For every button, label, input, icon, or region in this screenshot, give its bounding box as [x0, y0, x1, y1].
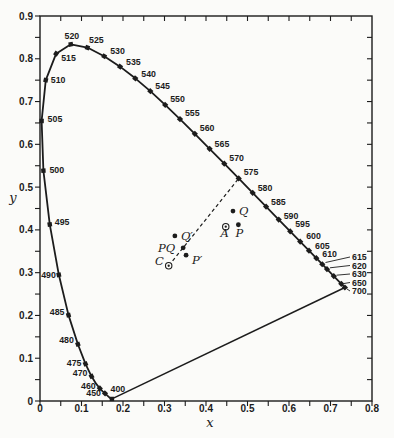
wavelength-marker [47, 222, 52, 227]
point-marker [184, 253, 189, 258]
wavelength-label: 570 [229, 153, 244, 163]
wavelength-label: 500 [49, 165, 64, 175]
wavelength-label: 490 [41, 270, 56, 280]
y-tick-label: 0.1 [19, 353, 33, 364]
x-tick-label: 0 [37, 403, 43, 414]
x-tick-label: 0.6 [282, 403, 296, 414]
y-tick-label: 0.7 [19, 96, 33, 107]
wavelength-label: 580 [258, 183, 273, 193]
wavelength-label: 520 [64, 31, 79, 41]
wavelength-label: 560 [200, 123, 215, 133]
x-tick-label: 0.1 [75, 403, 89, 414]
wavelength-label: 530 [110, 46, 125, 56]
purple-boundary-line [112, 288, 345, 399]
wavelength-label: 540 [141, 69, 156, 79]
wavelength-label: 510 [51, 75, 66, 85]
wavelength-marker [41, 168, 46, 173]
dominant-wavelength-dashed-line [169, 178, 239, 265]
wavelength-label: 535 [126, 57, 141, 67]
wavelength-label: 565 [215, 139, 230, 149]
wavelength-label: 485 [50, 307, 65, 317]
leader-line [344, 283, 350, 284]
point-label: Q′ [181, 229, 193, 243]
wavelength-marker [56, 272, 61, 277]
wavelength-label: 575 [244, 167, 259, 177]
wavelength-label: 700 [352, 286, 367, 296]
wavelength-label: 610 [322, 249, 337, 259]
leader-line [337, 274, 351, 275]
leader-line [330, 266, 350, 268]
wavelength-label: 495 [55, 217, 70, 227]
wavelength-marker [75, 341, 81, 347]
y-tick-label: 0.6 [19, 139, 33, 150]
y-tick-label: 0.9 [19, 11, 33, 22]
leader-line [347, 289, 350, 291]
wavelength-label: 600 [306, 231, 321, 241]
wavelength-label: 400 [111, 384, 126, 394]
x-tick-label: 0.8 [365, 403, 379, 414]
plot-frame [40, 16, 372, 401]
x-tick-label: 0.5 [241, 403, 255, 414]
y-tick-label: 0.5 [19, 182, 33, 193]
y-tick-label: 0 [27, 396, 33, 407]
point-marker [172, 233, 177, 238]
wavelength-label: 460 [81, 381, 96, 391]
wavelength-label: 515 [61, 53, 76, 63]
plot-layer: 00.10.20.30.40.50.60.70.800.10.20.30.40.… [19, 11, 379, 415]
wavelength-label: 475 [67, 358, 82, 368]
wavelength-marker [68, 42, 73, 47]
x-tick-label: 0.3 [158, 403, 172, 414]
x-axis-title: x [206, 415, 214, 430]
point-marker [231, 209, 236, 214]
y-tick-label: 0.8 [19, 53, 33, 64]
x-tick-label: 0.4 [199, 403, 213, 414]
wavelength-label: 480 [59, 335, 74, 345]
y-tick-label: 0.4 [19, 224, 33, 235]
point-marker [181, 245, 186, 250]
x-tick-label: 0.7 [324, 403, 338, 414]
y-tick-label: 0.2 [19, 310, 33, 321]
wavelength-label: 550 [170, 94, 185, 104]
wavelength-label: 505 [48, 114, 63, 124]
wavelength-marker [39, 119, 44, 124]
wavelength-label: 555 [185, 108, 200, 118]
wavelength-marker [66, 312, 71, 317]
y-tick-label: 0.3 [19, 267, 33, 278]
point-label: Q [239, 204, 249, 218]
wavelength-label: 470 [73, 368, 88, 378]
point-label: P′ [191, 253, 203, 267]
wavelength-marker [43, 77, 48, 82]
point-label: P [234, 226, 243, 240]
wavelength-label: 525 [89, 35, 104, 45]
chromaticity-diagram: 00.10.20.30.40.50.60.70.800.10.20.30.40.… [0, 0, 394, 438]
figure: 00.10.20.30.40.50.60.70.800.10.20.30.40.… [0, 0, 394, 438]
y-axis-title: y [8, 190, 17, 205]
point-label: C [155, 254, 164, 268]
illuminant-marker-center [168, 265, 170, 267]
wavelength-label: 545 [155, 81, 170, 91]
x-tick-label: 0.2 [116, 403, 130, 414]
wavelength-marker [110, 397, 114, 401]
wavelength-label: 585 [271, 197, 286, 207]
wavelength-marker [83, 361, 89, 367]
wavelength-label: 595 [295, 219, 310, 229]
point-label: A [220, 226, 229, 240]
